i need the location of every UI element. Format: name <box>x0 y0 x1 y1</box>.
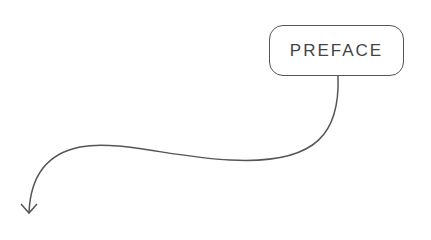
curved-connector <box>29 76 338 213</box>
preface-label: PREFACE <box>290 41 383 61</box>
preface-box: PREFACE <box>269 25 404 76</box>
